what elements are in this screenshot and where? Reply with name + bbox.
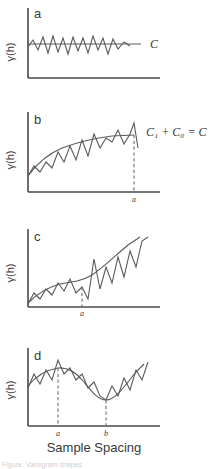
panel-a-yaxis-label: γ(h) [4,43,16,62]
panel-b-annotation-text: C₁ + C₀ = C [146,125,208,139]
variogram-figure: γ(h) a C γ(h) b a [0,0,213,469]
panel-c-data-line [28,237,148,304]
panel-a-plot: γ(h) a C [0,0,213,100]
panel-c-letter: c [34,229,41,244]
panel-b-data-line [28,123,138,176]
panel-b-letter: b [34,112,41,127]
panel-c-tick-a: a [80,309,84,318]
panel-b-tick-a: a [132,195,136,204]
panel-a-data-line [28,36,130,54]
xaxis-title: Sample Spacing [47,440,142,455]
panel-c-yaxis-label: γ(h) [4,264,16,283]
panel-c-plot: γ(h) c a [0,215,213,330]
panel-b: γ(h) b a C₁ + C₀ = C [0,100,213,215]
panel-d-plot: γ(h) d a b Sample Spacing Figure. Variog… [0,330,213,469]
panel-d: γ(h) d a b Sample Spacing Figure. Variog… [0,330,213,469]
panel-a: γ(h) a C [0,0,213,100]
panel-c: γ(h) c a [0,215,213,330]
panel-d-letter: d [34,348,41,363]
panel-d-tick-b: b [104,429,108,438]
panel-d-yaxis-label: γ(h) [4,381,16,400]
panel-b-model-line [28,135,134,176]
panel-c-model-line [28,237,140,303]
panel-a-letter: a [34,6,42,21]
panel-d-tick-a: a [56,429,60,438]
panel-b-yaxis-label: γ(h) [4,151,16,170]
panel-b-annotation: C₁ + C₀ = C [146,125,208,139]
panel-b-plot: γ(h) b a C₁ + C₀ = C [0,100,213,215]
caption-fragment: Figure. Variogram shapes [2,461,83,469]
panel-a-annotation: C [150,37,159,51]
